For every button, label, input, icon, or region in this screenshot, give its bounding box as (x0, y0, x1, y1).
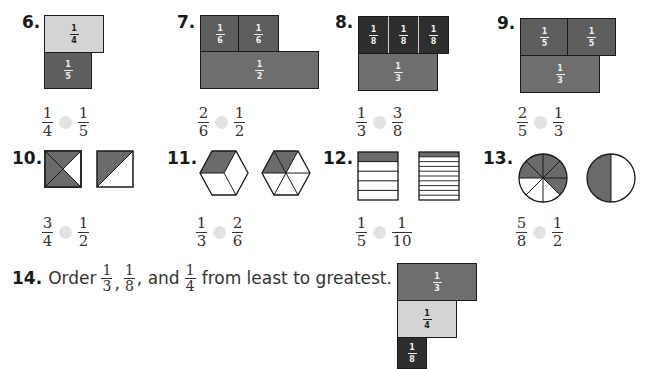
separator: , (114, 273, 119, 293)
fraction: 18 (124, 264, 135, 293)
rectangle-fifths-one-shaded (357, 151, 399, 201)
denominator: 2 (553, 234, 563, 249)
denominator: 3 (554, 124, 564, 139)
numerator: 2 (233, 216, 243, 231)
square-three-fourths-shaded (44, 150, 82, 188)
denominator: 5 (79, 124, 89, 139)
denominator: 4 (186, 280, 195, 293)
compare-circle[interactable] (373, 116, 386, 129)
compare-circle[interactable] (59, 116, 72, 129)
denominator: 3 (197, 234, 207, 249)
numerator: 5 (517, 216, 527, 231)
problem-number: 10. (12, 148, 42, 168)
hexagon-one-third-shaded (199, 150, 249, 196)
numerator: 1 (409, 343, 415, 352)
denominator: 4 (71, 36, 77, 45)
square-one-half-shaded (96, 150, 134, 188)
problem-number: 6. (22, 12, 40, 32)
denominator: 8 (431, 37, 437, 46)
numerator: 1 (434, 272, 440, 281)
numerator: 1 (257, 60, 263, 69)
fraction: 14 (185, 264, 196, 293)
compare-circle[interactable] (213, 226, 226, 239)
fraction-bar-one-third: 13 (520, 55, 600, 93)
numerator: 1 (554, 106, 564, 121)
numerator: 1 (71, 24, 77, 33)
denominator: 8 (393, 124, 403, 139)
denominator: 10 (392, 234, 411, 249)
denominator: 3 (395, 74, 401, 83)
numerator: 1 (65, 60, 71, 69)
rectangle-tenths-one-shaded (418, 151, 460, 201)
compare-circle[interactable] (373, 226, 386, 239)
denominator: 2 (79, 234, 89, 249)
fraction-bar-one-eighth: 18 (389, 16, 419, 54)
fraction-bar-one-eighth: 18 (419, 16, 449, 54)
compare-circle[interactable] (533, 226, 546, 239)
hexagon-two-sixths-shaded (261, 150, 311, 196)
numerator: 1 (553, 216, 563, 231)
comparison: 13 38 (356, 106, 403, 139)
comparison: 26 12 (198, 106, 245, 139)
numerator: 1 (235, 106, 245, 121)
numerator: 1 (79, 216, 89, 231)
numerator: 1 (557, 64, 563, 73)
compare-circle[interactable] (534, 116, 547, 129)
numerator: 3 (393, 106, 403, 121)
problem-number: 12. (323, 148, 353, 168)
fraction-bar-one-eighth: 18 (358, 16, 389, 54)
fraction-bar-one-fourth: 14 (44, 15, 104, 53)
denominator: 5 (589, 39, 595, 48)
fraction-bar-one-fifth: 15 (44, 52, 92, 89)
denominator: 3 (102, 280, 111, 293)
numerator: 2 (518, 106, 528, 121)
fraction-bar-one-fifth: 15 (520, 18, 569, 56)
circle-one-half-shaded (586, 153, 636, 203)
problem-number: 8. (335, 12, 353, 32)
fraction-bar-one-third: 13 (358, 53, 438, 91)
numerator: 1 (424, 309, 430, 318)
comparison: 25 13 (517, 106, 564, 139)
numerator: 1 (102, 264, 111, 277)
denominator: 6 (233, 234, 243, 249)
comparison: 34 12 (42, 216, 89, 249)
denominator: 8 (125, 280, 134, 293)
denominator: 8 (401, 37, 407, 46)
comparison: 58 12 (516, 216, 563, 249)
numerator: 1 (217, 24, 223, 33)
numerator: 1 (589, 27, 595, 36)
denominator: 3 (557, 76, 563, 85)
problem-number: 7. (177, 12, 195, 32)
denominator: 2 (257, 72, 263, 81)
compare-circle[interactable] (59, 226, 72, 239)
fraction-bar-one-eighth: 18 (397, 337, 427, 369)
fraction-bar-one-half: 12 (200, 51, 319, 89)
numerator: 1 (371, 25, 377, 34)
denominator: 6 (256, 36, 262, 45)
compare-circle[interactable] (215, 116, 228, 129)
denominator: 5 (357, 234, 367, 249)
numerator: 1 (197, 216, 207, 231)
denominator: 3 (357, 124, 367, 139)
denominator: 8 (409, 355, 415, 364)
comparison: 13 26 (196, 216, 243, 249)
problem-number: 11. (167, 148, 197, 168)
numerator: 1 (397, 216, 407, 231)
question-14: 14. Order 13 , 18 , and 14 from least to… (12, 263, 392, 293)
denominator: 2 (235, 124, 245, 139)
numerator: 1 (542, 27, 548, 36)
denominator: 6 (199, 124, 209, 139)
separator: , and (137, 268, 180, 288)
problem-number: 9. (497, 13, 515, 33)
problem-number: 14. (12, 268, 42, 288)
numerator: 1 (79, 106, 89, 121)
question-suffix: from least to greatest. (202, 268, 392, 288)
numerator: 2 (199, 106, 209, 121)
numerator: 1 (401, 25, 407, 34)
denominator: 8 (517, 234, 527, 249)
denominator: 5 (542, 39, 548, 48)
denominator: 4 (424, 321, 430, 330)
denominator: 8 (371, 37, 377, 46)
numerator: 1 (125, 264, 134, 277)
numerator: 3 (43, 216, 53, 231)
